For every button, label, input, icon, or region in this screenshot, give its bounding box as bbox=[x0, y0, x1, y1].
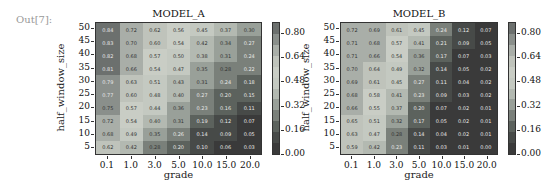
heatmap-cell: 0.47 bbox=[167, 62, 191, 75]
colorbar-segment bbox=[509, 67, 515, 78]
heatmap-cell: 0.49 bbox=[120, 128, 144, 141]
heatmap-cell: 0.40 bbox=[143, 115, 167, 128]
heatmap-cell: 0.50 bbox=[167, 49, 191, 62]
heatmap-cell: 0.28 bbox=[143, 141, 167, 154]
colorbar-segment bbox=[509, 99, 515, 110]
heatmap-cell: 0.75 bbox=[96, 102, 120, 115]
heatmap-cell: 0.68 bbox=[341, 89, 363, 102]
colorbar-tick-label: 0.00 bbox=[521, 148, 541, 158]
heatmap-cell: 0.79 bbox=[96, 75, 120, 88]
heatmap-cell: 0.35 bbox=[190, 62, 214, 75]
y-axis-label: half_window_size bbox=[300, 37, 311, 137]
heatmap-grid: 0.720.690.610.450.240.120.070.710.680.57… bbox=[340, 22, 498, 155]
heatmap-cell: 0.01 bbox=[475, 128, 497, 141]
y-axis-label: half_window_size bbox=[55, 37, 66, 137]
heatmap-cell: 0.61 bbox=[386, 23, 408, 36]
heatmap-cell: 0.68 bbox=[96, 128, 120, 141]
heatmap-cell: 0.03 bbox=[452, 89, 474, 102]
heatmap-cell: 0.54 bbox=[386, 49, 408, 62]
colorbar-segment bbox=[273, 67, 279, 78]
colorbar-segment bbox=[509, 78, 515, 89]
colorbar-tick-label: 0.80 bbox=[521, 27, 541, 37]
heatmap-cell: 0.68 bbox=[120, 49, 144, 62]
colorbar-tick-label: 0.80 bbox=[285, 27, 305, 37]
heatmap-cell: 0.51 bbox=[143, 75, 167, 88]
heatmap-cell: 0.27 bbox=[408, 75, 430, 88]
colorbar-segment bbox=[273, 132, 279, 143]
heatmap-cell: 0.20 bbox=[408, 102, 430, 115]
colorbar-segment bbox=[509, 110, 515, 121]
colorbar-segment bbox=[509, 56, 515, 67]
y-tick-label: 15 bbox=[315, 115, 335, 125]
heatmap-cell: 0.09 bbox=[214, 128, 238, 141]
colorbar bbox=[272, 22, 280, 155]
heatmap-cell: 0.02 bbox=[475, 75, 497, 88]
heatmap-cell: 0.61 bbox=[363, 75, 385, 88]
heatmap-cell: 0.82 bbox=[96, 49, 120, 62]
heatmap-cell: 0.41 bbox=[408, 36, 430, 49]
output-cell-label: Out[7]: bbox=[16, 14, 52, 25]
heatmap-cell: 0.05 bbox=[237, 128, 261, 141]
y-tick-label: 50 bbox=[315, 22, 335, 32]
heatmap-cell: 0.57 bbox=[143, 49, 167, 62]
colorbar-segment bbox=[273, 23, 279, 34]
heatmap-cell: 0.37 bbox=[214, 23, 238, 36]
heatmap-cell: 0.01 bbox=[475, 102, 497, 115]
heatmap-cell: 0.44 bbox=[143, 102, 167, 115]
colorbar-segment bbox=[273, 34, 279, 45]
heatmap-cell: 0.02 bbox=[475, 89, 497, 102]
heatmap-cell: 0.84 bbox=[96, 23, 120, 36]
heatmap-cell: 0.30 bbox=[237, 23, 261, 36]
heatmap-cell: 0.27 bbox=[190, 89, 214, 102]
heatmap-cell: 0.28 bbox=[386, 128, 408, 141]
colorbar-segment bbox=[273, 121, 279, 132]
heatmap-cell: 0.62 bbox=[96, 141, 120, 154]
heatmap-cell: 0.45 bbox=[408, 23, 430, 36]
heatmap-cell: 0.40 bbox=[167, 89, 191, 102]
y-tick-label: 45 bbox=[70, 35, 90, 45]
heatmap-cell: 0.28 bbox=[214, 62, 238, 75]
heatmap-cell: 0.11 bbox=[430, 75, 452, 88]
colorbar-segment bbox=[509, 143, 515, 154]
heatmap-cell: 0.55 bbox=[363, 102, 385, 115]
y-tick-label: 25 bbox=[315, 88, 335, 98]
heatmap-cell: 0.69 bbox=[363, 23, 385, 36]
heatmap-cell: 0.23 bbox=[408, 89, 430, 102]
heatmap-cell: 0.66 bbox=[363, 49, 385, 62]
heatmap-cell: 0.20 bbox=[214, 89, 238, 102]
heatmap-cell: 0.03 bbox=[430, 141, 452, 154]
heatmap-cell: 0.03 bbox=[475, 49, 497, 62]
heatmap-cell: 0.32 bbox=[386, 115, 408, 128]
colorbar-tick-label: 0.00 bbox=[285, 148, 305, 158]
heatmap-cell: 0.20 bbox=[167, 141, 191, 154]
y-tick-label: 40 bbox=[315, 48, 335, 58]
heatmap-cell: 0.54 bbox=[167, 36, 191, 49]
heatmap-cell: 0.07 bbox=[237, 115, 261, 128]
heatmap-cell: 0.36 bbox=[167, 102, 191, 115]
heatmap-cell: 0.07 bbox=[475, 23, 497, 36]
y-tick-label: 10 bbox=[70, 128, 90, 138]
heatmap-cell: 0.69 bbox=[341, 75, 363, 88]
heatmap-cell: 0.57 bbox=[386, 36, 408, 49]
heatmap-cell: 0.11 bbox=[237, 102, 261, 115]
x-axis-label: grade bbox=[95, 169, 262, 180]
heatmap-cell: 0.57 bbox=[120, 102, 144, 115]
heatmap-cell: 0.17 bbox=[430, 49, 452, 62]
heatmap-cell: 0.70 bbox=[120, 36, 144, 49]
heatmap-cell: 0.34 bbox=[214, 36, 238, 49]
heatmap-cell: 0.02 bbox=[452, 102, 474, 115]
heatmap-cell: 0.54 bbox=[120, 115, 144, 128]
colorbar-segment bbox=[273, 143, 279, 154]
heatmap-cell: 0.24 bbox=[214, 75, 238, 88]
heatmap-cell: 0.72 bbox=[341, 23, 363, 36]
colorbar-tick-label: 0.48 bbox=[521, 75, 541, 85]
colorbar bbox=[508, 22, 516, 155]
colorbar-segment bbox=[509, 89, 515, 100]
heatmap-cell: 0.21 bbox=[430, 36, 452, 49]
heatmap-cell: 0.71 bbox=[341, 36, 363, 49]
colorbar-segment bbox=[509, 121, 515, 132]
colorbar-segment bbox=[273, 89, 279, 100]
heatmap-cell: 0.06 bbox=[214, 141, 238, 154]
heatmap-cell: 0.07 bbox=[430, 102, 452, 115]
heatmap-cell: 0.26 bbox=[167, 128, 191, 141]
